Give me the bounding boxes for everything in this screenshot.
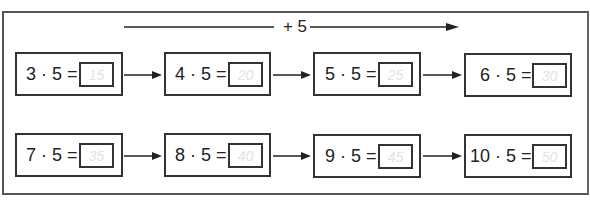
arrow-right-icon bbox=[423, 70, 462, 80]
expression: 9 · 5 = bbox=[325, 146, 377, 167]
equation-box: 4 · 5 = 20 bbox=[164, 52, 271, 96]
expression: 4 · 5 = bbox=[175, 64, 227, 85]
answer-field[interactable]: 25 bbox=[378, 62, 413, 87]
expression: 5 · 5 = bbox=[325, 64, 377, 85]
expression: 7 · 5 = bbox=[26, 145, 78, 166]
expression: 6 · 5 = bbox=[480, 65, 532, 86]
answer-field[interactable]: 35 bbox=[79, 143, 114, 168]
answer-field[interactable]: 45 bbox=[378, 144, 413, 169]
equation-box: 10 · 5 = 50 bbox=[464, 134, 572, 178]
answer-field[interactable]: 20 bbox=[228, 62, 263, 87]
answer-field[interactable]: 50 bbox=[532, 144, 567, 169]
equation-box: 8 · 5 = 40 bbox=[164, 133, 271, 177]
equation-box: 9 · 5 = 45 bbox=[313, 134, 421, 178]
arrow-right-icon bbox=[423, 151, 462, 161]
expression: 3 · 5 = bbox=[26, 64, 78, 85]
operation-label: + 5 bbox=[280, 17, 310, 37]
arrow-right-icon bbox=[124, 70, 162, 80]
answer-field[interactable]: 30 bbox=[532, 63, 567, 88]
arrow-right-icon bbox=[273, 70, 311, 80]
answer-field[interactable]: 15 bbox=[79, 62, 114, 87]
answer-field[interactable]: 40 bbox=[228, 143, 263, 168]
arrow-right-icon bbox=[124, 151, 162, 161]
expression: 10 · 5 = bbox=[470, 146, 532, 167]
equation-box: 6 · 5 = 30 bbox=[464, 53, 572, 97]
equation-box: 7 · 5 = 35 bbox=[15, 133, 123, 177]
arrow-right-icon bbox=[273, 151, 311, 161]
equation-box: 5 · 5 = 25 bbox=[313, 52, 421, 96]
equation-box: 3 · 5 = 15 bbox=[15, 52, 123, 96]
expression: 8 · 5 = bbox=[175, 145, 227, 166]
